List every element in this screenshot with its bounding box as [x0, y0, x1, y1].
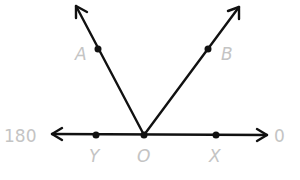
ray-ob [144, 7, 239, 135]
line-xy [52, 134, 267, 135]
label-a: A [74, 44, 87, 64]
ray-oa [76, 6, 144, 135]
label-b: B [221, 44, 233, 64]
label-x: X [208, 146, 221, 166]
label-180: 180 [4, 126, 36, 146]
point-x [213, 132, 220, 139]
angle-diagram: 180 0 A B Y O X [0, 0, 300, 180]
label-y: Y [89, 146, 101, 166]
point-a [95, 46, 102, 53]
point-b [205, 46, 212, 53]
label-0: 0 [274, 126, 285, 146]
point-y [93, 132, 100, 139]
label-o: O [137, 146, 150, 166]
point-o [141, 132, 148, 139]
